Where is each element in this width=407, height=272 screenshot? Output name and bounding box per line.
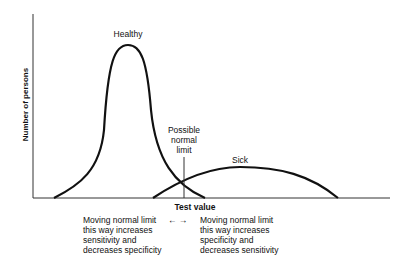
limit-label-1: Possible xyxy=(162,125,206,135)
limit-label-2: normal xyxy=(162,135,206,145)
sick-label: Sick xyxy=(225,155,255,165)
arrows: ← → xyxy=(168,215,187,225)
sick-curve xyxy=(153,167,338,198)
healthy-label: Healthy xyxy=(108,29,148,39)
right-note: Moving normal limit this way increases s… xyxy=(200,215,278,255)
healthy-curve xyxy=(54,45,205,198)
limit-label-3: limit xyxy=(162,145,206,155)
x-axis-label: Test value xyxy=(165,202,225,212)
left-note: Moving normal limit this way increases s… xyxy=(83,215,161,255)
y-axis-label: Number of persons xyxy=(21,50,30,160)
